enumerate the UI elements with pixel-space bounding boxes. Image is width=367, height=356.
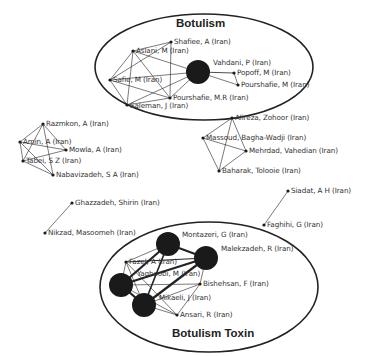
node-yaghoobi[interactable] [109,273,133,297]
node-shafiee[interactable] [169,40,172,43]
node-label-mowla: Mowla, A (Iran) [69,146,122,153]
node-label-massoud: Massoud, Bagha-Wadji (Iran) [206,134,306,141]
node-label-vahdani: Vahdani, P (Iran) [213,59,271,66]
node-label-razmkon: Razmkon, A (Iran) [46,120,109,127]
node-label-montazeri: Montazeri, G (Iran) [182,231,248,238]
node-razmkon[interactable] [41,122,44,125]
node-label-faghihi: Faghihi, G (Iran) [267,221,323,228]
node-label-popoff: Popoff, M (Iran) [237,69,291,76]
node-pourshafie_mr[interactable] [168,96,171,99]
node-label-safie: Safie, M (Iran) [113,76,162,83]
node-label-siadat: Siadat, A H (Iran) [291,187,351,194]
node-label-shafiee: Shafiee, A (Iran) [174,38,231,45]
node-label-fazel: Fazel, A (Iran) [129,258,177,265]
node-label-saleman: Saleman, J (Iran) [130,102,188,109]
node-fazel[interactable] [124,260,127,263]
node-mehrdad[interactable] [244,149,247,152]
node-label-pourshafie_m: Pourshafie, M (Iran) [241,81,309,88]
node-label-nabavizadeh: Nabavizadeh, S A (Iran) [56,171,139,178]
node-pourshafie_m[interactable] [236,83,239,86]
node-popoff[interactable] [232,71,235,74]
node-label-amin: Amin, A (Iran) [23,138,72,145]
node-mikaeli[interactable] [132,293,156,317]
node-mowla[interactable] [64,148,67,151]
node-label-mikaeli: Mikaeli, J (Iran) [159,294,211,301]
edge-massoud-baharak [203,138,219,171]
node-label-baharak: Baharak, Tolooie (Iran) [222,167,301,174]
node-aslani[interactable] [131,49,134,52]
node-safie[interactable] [108,78,111,81]
node-label-bishehsan: Bishehsan, F (Iran) [203,280,269,287]
node-tabei[interactable] [21,159,24,162]
node-alireza[interactable] [230,116,233,119]
node-nikzad[interactable] [43,231,46,234]
node-amin[interactable] [18,140,21,143]
node-montazeri[interactable] [156,232,180,256]
node-saleman[interactable] [125,103,128,106]
node-vahdani[interactable] [186,60,210,84]
node-label-alireza: Alireza, Zohoor (Iran) [235,114,309,121]
cluster-title-botulism-toxin: Botulism Toxin [172,328,254,340]
edge-razmkon-nabavizadeh [43,124,53,175]
node-label-yaghoobi: Yaghoobi, M (Iran) [137,270,200,277]
node-ansari[interactable] [175,313,178,316]
node-bishehsan[interactable] [198,282,201,285]
cluster-title-botulism: Botulism [176,18,225,30]
node-label-aslani: Aslani, M (Iran) [136,47,189,54]
node-label-tabei: Tabei, S Z (Iran) [26,157,81,164]
node-label-nikzad: Nikzad, Masoomeh (Iran) [48,229,136,236]
coauthorship-network-diagram: Botulism Botulism Toxin Shafiee, A (Iran… [0,0,367,356]
node-baharak[interactable] [217,169,220,172]
node-label-ghazzadeh: Ghazzadeh, Shirin (Iran) [75,199,160,206]
node-label-malekzadeh: Malekzadeh, R (Iran) [221,245,293,252]
node-massoud[interactable] [201,136,204,139]
node-malekzadeh[interactable] [194,246,218,270]
node-faghihi[interactable] [262,223,265,226]
node-siadat[interactable] [286,189,289,192]
node-label-ansari: Ansari, R (Iran) [180,311,232,318]
node-ghazzadeh[interactable] [70,201,73,204]
node-nabavizadeh[interactable] [51,173,54,176]
node-label-mehrdad: Mehrdad, Vahedian (Iran) [249,147,338,154]
